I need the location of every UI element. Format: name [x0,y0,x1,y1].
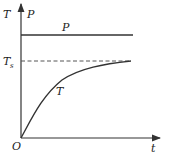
p-line-label: P [61,21,70,34]
ts-label-subscript: s [10,62,14,70]
diagram-canvas: T P P T s T O t [0,0,169,157]
origin-label: O [12,140,21,153]
t-curve-label: T [56,85,65,98]
x-axis-label-t: t [151,142,156,155]
t-curve [21,61,131,138]
y-axis-label-p: P [26,8,35,21]
y-axis-label-t: T [3,8,12,21]
